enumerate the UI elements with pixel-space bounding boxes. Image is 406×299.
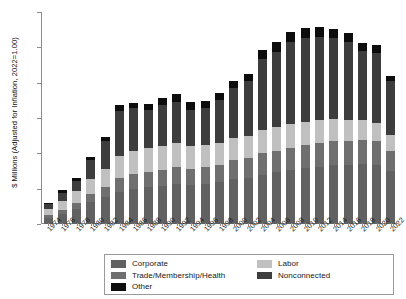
legend-item-label: Other (132, 282, 152, 291)
bar-segment (144, 110, 153, 148)
bar-column (201, 101, 210, 224)
bar-series-container (41, 12, 398, 224)
bar-column (101, 137, 110, 224)
bar-segment (372, 165, 381, 224)
bar-segment (344, 165, 353, 224)
legend-item[interactable]: Nonconnected (257, 270, 330, 282)
bar-segment (201, 108, 210, 145)
bar-segment (272, 42, 281, 52)
bar-segment (129, 108, 138, 150)
bar-column (229, 81, 238, 224)
bar-segment (358, 120, 367, 140)
bar-segment (329, 119, 338, 141)
bar-segment (101, 141, 110, 169)
bar-column (244, 74, 253, 224)
bar-segment (172, 167, 181, 184)
bar-segment (329, 38, 338, 119)
bar-segment (386, 135, 395, 151)
bar-segment (258, 175, 267, 224)
bar-segment (72, 191, 81, 203)
bar-segment (144, 148, 153, 171)
legend-item[interactable]: Labor (257, 258, 330, 270)
bar-column (86, 157, 95, 224)
bar-segment (215, 93, 224, 100)
bar-segment (258, 153, 267, 174)
y-tick-mark (37, 224, 41, 225)
bar-segment (244, 158, 253, 178)
bar-segment (286, 42, 295, 124)
bar-segment (101, 187, 110, 198)
bar-column (129, 103, 138, 225)
bar-segment (301, 28, 310, 39)
bar-segment (72, 181, 81, 191)
bar-segment (344, 120, 353, 140)
bar-segment (244, 81, 253, 135)
bar-segment (358, 43, 367, 51)
bar-segment (186, 102, 195, 109)
bar-segment (372, 141, 381, 164)
bar-segment (244, 74, 253, 82)
bar-segment (344, 33, 353, 41)
bar-segment (301, 38, 310, 122)
bar-segment (215, 165, 224, 183)
bar-segment (158, 105, 167, 146)
legend-column-right: LaborNonconnected (257, 258, 330, 281)
legend-item-label: Nonconnected (278, 271, 330, 280)
bar-segment (258, 59, 267, 130)
bar-segment (172, 143, 181, 167)
bar-segment (301, 168, 310, 224)
bar-segment (329, 29, 338, 38)
bar-column (286, 32, 295, 224)
bar-column (215, 93, 224, 224)
bar-segment (158, 170, 167, 186)
legend-swatch-icon (111, 283, 126, 291)
bar-segment (286, 170, 295, 224)
bar-segment (172, 102, 181, 144)
bar-segment (329, 141, 338, 165)
bar-segment (358, 164, 367, 224)
bar-column (386, 76, 395, 224)
bar-segment (272, 151, 281, 173)
bar-segment (358, 51, 367, 120)
bar-column (144, 104, 153, 224)
bar-segment (358, 140, 367, 164)
bar-column (158, 98, 167, 224)
bar-segment (286, 32, 295, 43)
bar-segment (129, 151, 138, 174)
bar-segment (344, 141, 353, 165)
bar-segment (186, 146, 195, 169)
bar-segment (329, 165, 338, 224)
bar-column (258, 50, 267, 224)
bar-segment (201, 167, 210, 184)
bar-segment (115, 156, 124, 178)
bar-column (315, 27, 324, 224)
chart-legend: CorporateTrade/Membership/HealthOther La… (104, 254, 394, 295)
legend-item[interactable]: Corporate (111, 258, 225, 270)
bar-segment (286, 124, 295, 147)
legend-item[interactable]: Trade/Membership/Health (111, 270, 225, 282)
bar-segment (315, 143, 324, 167)
bar-segment (201, 101, 210, 108)
bar-column (172, 94, 181, 224)
bar-segment (86, 160, 95, 178)
bar-segment (258, 50, 267, 59)
bar-column (186, 102, 195, 224)
bar-column (344, 33, 353, 224)
bar-column (358, 43, 367, 224)
bar-segment (58, 201, 67, 210)
bar-segment (272, 52, 281, 127)
bar-column (115, 105, 124, 224)
bar-segment (244, 136, 253, 159)
bar-segment (229, 160, 238, 179)
bar-segment (229, 88, 238, 137)
bar-column (329, 29, 338, 224)
legend-item[interactable]: Other (111, 281, 225, 293)
bar-segment (215, 143, 224, 165)
bar-segment (172, 94, 181, 102)
bar-segment (386, 171, 395, 224)
bar-segment (186, 110, 195, 147)
bar-segment (372, 45, 381, 53)
bar-segment (58, 193, 67, 201)
bar-segment (315, 120, 324, 143)
bar-segment (215, 100, 224, 142)
